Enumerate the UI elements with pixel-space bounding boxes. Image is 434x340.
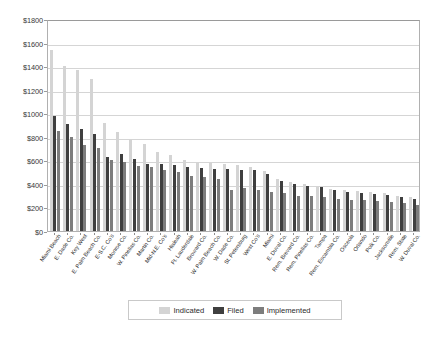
legend-swatch-icon-implemented	[253, 307, 264, 314]
legend-swatch-icon-indicated	[159, 307, 170, 314]
bar-group	[261, 21, 274, 231]
bar-implemented	[337, 199, 340, 231]
bar-indicated	[143, 144, 146, 231]
bar-chart: $0$200$400$600$800$1000$1200$1400$1600$1…	[0, 0, 434, 340]
bar-implemented	[203, 177, 206, 231]
bar-implemented	[70, 137, 73, 231]
bar-filed	[106, 157, 109, 231]
bar-group	[141, 21, 154, 231]
bar-implemented	[283, 193, 286, 231]
bar-filed	[266, 174, 269, 231]
bar-filed	[333, 190, 336, 231]
bar-implemented	[390, 202, 393, 231]
bar-indicated	[383, 193, 386, 231]
legend-label-implemented: Implemented	[267, 306, 311, 315]
legend-item-implemented: Implemented	[253, 306, 311, 315]
bar-implemented	[243, 188, 246, 231]
bar-group	[314, 21, 327, 231]
bar-indicated	[63, 66, 66, 231]
bar-filed	[66, 124, 69, 231]
bar-indicated	[209, 163, 212, 231]
bar-group	[195, 21, 208, 231]
bar-group	[181, 21, 194, 231]
bar-filed	[53, 116, 56, 231]
legend-label-filed: Filed	[227, 306, 243, 315]
y-axis-tick-label: $600	[27, 157, 43, 166]
bar-group	[328, 21, 341, 231]
bar-implemented	[150, 167, 153, 231]
bar-group	[115, 21, 128, 231]
bar-filed	[213, 169, 216, 231]
bar-indicated	[103, 123, 106, 231]
bar-filed	[80, 129, 83, 231]
y-axis-tick-label: $0	[35, 228, 43, 237]
bar-filed	[146, 164, 149, 231]
bar-group	[408, 21, 421, 231]
bar-filed	[200, 168, 203, 231]
bar-group	[288, 21, 301, 231]
bar-group	[168, 21, 181, 231]
bar-implemented	[163, 170, 166, 231]
bar-indicated	[396, 196, 399, 231]
bar-implemented	[310, 196, 313, 231]
bar-indicated	[316, 186, 319, 231]
bar-indicated	[249, 167, 252, 231]
bar-indicated	[183, 160, 186, 231]
bar-filed	[293, 184, 296, 231]
bar-implemented	[416, 205, 419, 231]
bar-filed	[253, 170, 256, 231]
bar-group	[394, 21, 407, 231]
bar-implemented	[257, 190, 260, 231]
bar-filed	[413, 199, 416, 231]
bar-filed	[173, 165, 176, 231]
bar-implemented	[190, 176, 193, 231]
bar-indicated	[289, 182, 292, 231]
bar-group	[208, 21, 221, 231]
bar-filed	[320, 187, 323, 231]
bar-implemented	[403, 203, 406, 231]
y-axis-tick-label: $1800	[23, 16, 43, 25]
bar-group	[128, 21, 141, 231]
legend-label-indicated: Indicated	[173, 306, 204, 315]
bar-implemented	[137, 166, 140, 231]
bar-indicated	[236, 165, 239, 231]
legend-item-filed: Filed	[213, 306, 243, 315]
bar-indicated	[356, 191, 359, 231]
bar-filed	[240, 170, 243, 231]
bar-indicated	[156, 152, 159, 232]
bar-indicated	[263, 171, 266, 231]
bar-filed	[280, 181, 283, 231]
bar-filed	[160, 164, 163, 231]
y-axis: $0$200$400$600$800$1000$1200$1400$1600$1…	[0, 0, 47, 252]
bar-group	[75, 21, 88, 231]
bar-indicated	[169, 155, 172, 231]
bar-implemented	[230, 190, 233, 231]
bar-group	[248, 21, 261, 231]
bar-indicated	[369, 192, 372, 231]
bar-implemented	[270, 192, 273, 231]
bar-series-container	[48, 21, 419, 231]
bar-group	[88, 21, 101, 231]
y-axis-tick-label: $1000	[23, 110, 43, 119]
bar-group	[341, 21, 354, 231]
bar-implemented	[177, 172, 180, 231]
bar-filed	[346, 192, 349, 231]
y-axis-tick-label: $800	[27, 133, 43, 142]
bar-implemented	[57, 131, 60, 231]
bar-implemented	[363, 200, 366, 231]
bar-indicated	[329, 189, 332, 231]
bar-implemented	[97, 148, 100, 231]
bar-group	[301, 21, 314, 231]
bar-filed	[120, 154, 123, 231]
bar-implemented	[123, 162, 126, 231]
legend-swatch-icon-filed	[213, 307, 224, 314]
y-axis-tick-label: $1200	[23, 86, 43, 95]
bar-group	[101, 21, 114, 231]
bar-group	[221, 21, 234, 231]
bar-group	[48, 21, 61, 231]
bar-filed	[186, 167, 189, 231]
bar-filed	[386, 195, 389, 231]
bar-implemented	[323, 197, 326, 231]
bar-implemented	[297, 196, 300, 231]
legend-item-indicated: Indicated	[159, 306, 204, 315]
